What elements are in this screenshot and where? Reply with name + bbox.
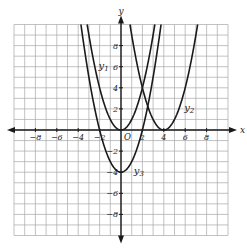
y-axis-label: y: [117, 6, 124, 16]
x-tick-label: 8: [204, 133, 209, 142]
x-tick-label: −6: [51, 133, 63, 142]
y-tick-label: 6: [113, 63, 118, 72]
y-tick-label: 8: [113, 42, 118, 51]
label-y1: y1: [98, 60, 109, 73]
x-tick-label: −2: [94, 133, 106, 142]
y-tick-label: −8: [106, 210, 118, 219]
parabola-graph: −8−6−4−22468−8−6−4−22468Oxy y1y2y3: [0, 0, 247, 249]
x-axis-arrow-left-icon: [7, 127, 15, 133]
x-axis-label: x: [240, 125, 245, 135]
x-axis-arrow-right-icon: [229, 127, 237, 133]
y-axis-arrow-up-icon: [118, 16, 124, 24]
y-axis-arrow-down-icon: [118, 236, 124, 244]
y-tick-label: 4: [112, 84, 118, 93]
y-tick-label: −6: [106, 189, 118, 198]
y-tick-label: 2: [112, 105, 118, 114]
x-tick-label: −8: [30, 133, 42, 142]
tick-labels: −8−6−4−22468−8−6−4−22468Oxy: [30, 6, 246, 220]
x-tick-label: 4: [160, 133, 166, 142]
origin-label: O: [124, 132, 131, 142]
x-tick-label: 6: [183, 133, 188, 142]
x-tick-label: −4: [72, 133, 84, 142]
